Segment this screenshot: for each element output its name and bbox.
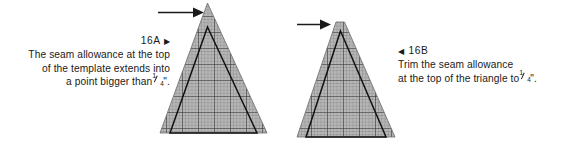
caption-16a-line-1: The seam allowance at the top (0, 48, 170, 62)
fraction-one-quarter-16b: 14 (519, 72, 530, 83)
diagram-16a (150, 0, 280, 143)
seam-allowance-grid-fill-16a (150, 0, 280, 143)
caption-16b-line-2-text: at the top of the triangle to (398, 73, 519, 84)
diagram-16b (295, 0, 415, 143)
caption-16b-tail: . (534, 73, 537, 84)
seam-allowance-grid-fill-16b (295, 0, 415, 143)
diagram-16a-svg (150, 0, 280, 143)
arrow-right-icon-16a (158, 8, 204, 18)
caption-16a-line-3-text: a point bigger than (66, 76, 152, 87)
caption-16a-line-2: of the template extends into (0, 62, 170, 76)
diagram-16b-svg (295, 0, 415, 143)
caption-16a: 16A▶ The seam allowance at the top of th… (0, 33, 174, 89)
fraction-denominator: 4 (527, 77, 531, 83)
figure-reference-16b-number: 16B (408, 45, 428, 56)
caption-16b-line-1: Trim the seam allowance (398, 58, 563, 72)
caption-16a-line-3: a point bigger than14". (0, 75, 170, 89)
figure-reference-16a: 16A▶ (0, 33, 170, 48)
triangle-left-icon: ◀ (398, 47, 404, 55)
figure-root: 16A▶ The seam allowance at the top of th… (0, 0, 563, 143)
figure-reference-16b: ◀16B (398, 43, 563, 58)
caption-16b-line-2: at the top of the triangle to14". (398, 72, 563, 86)
caption-16b: ◀16B Trim the seam allowance at the top … (398, 43, 563, 85)
arrow-right-icon-16b (297, 20, 331, 30)
